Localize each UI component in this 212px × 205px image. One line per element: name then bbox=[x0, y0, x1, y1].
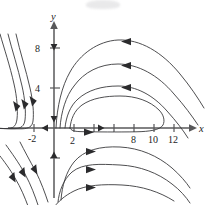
x-label-2: 2 bbox=[70, 135, 75, 146]
curve-upper-right-middle bbox=[60, 64, 198, 128]
curve-upper-left-outer bbox=[0, 34, 17, 129]
x-label-12: 12 bbox=[168, 134, 178, 145]
y-axis-down-marker-upper bbox=[51, 44, 58, 51]
arrow-upper-left-inner bbox=[30, 96, 37, 107]
x-axis-left-marker bbox=[42, 125, 49, 132]
arrow-lower-right-lower bbox=[86, 184, 96, 191]
phase-portrait-svg: -2 2 8 10 12 4 8 x y bbox=[0, 0, 212, 205]
x-label-8: 8 bbox=[131, 134, 136, 145]
y-axis-up-marker-below bbox=[51, 152, 58, 159]
phase-portrait-figure: -2 2 8 10 12 4 8 x y bbox=[0, 0, 212, 205]
curve-upper-right-outer bbox=[56, 40, 204, 128]
curve-closed-loop bbox=[70, 96, 164, 132]
arrow-lower-right-middle bbox=[86, 166, 96, 173]
arrow-upper-right-middle bbox=[121, 62, 131, 69]
y-axis-name: y bbox=[50, 11, 56, 22]
arrow-lower-left-inner bbox=[31, 164, 38, 174]
arrow-upper-right-inner bbox=[121, 84, 131, 91]
y-label-4: 4 bbox=[35, 83, 40, 94]
y-axis-arrowhead bbox=[50, 21, 58, 29]
curve-lower-right-upper bbox=[61, 147, 190, 200]
arrow-closed-loop bbox=[84, 129, 94, 136]
curve-lower-right-middle bbox=[58, 164, 190, 203]
curve-lower-left-middle bbox=[6, 145, 38, 205]
arrow-upper-right-outer bbox=[121, 38, 131, 45]
tick-labels-group: -2 2 8 10 12 4 8 bbox=[28, 43, 178, 146]
x-axis-name: x bbox=[198, 123, 204, 134]
x-axis-arrowhead bbox=[189, 124, 197, 132]
x-label-10: 10 bbox=[148, 134, 158, 145]
page-scan-artifact bbox=[86, 0, 120, 9]
curve-upper-right-inner bbox=[65, 86, 188, 138]
x-label-neg2: -2 bbox=[28, 133, 36, 144]
y-label-8: 8 bbox=[35, 43, 40, 54]
curve-upper-left-inner bbox=[0, 34, 33, 129]
curve-lower-right-lower bbox=[55, 185, 174, 205]
x-axis-right-marker bbox=[98, 125, 105, 132]
trajectories-group bbox=[0, 34, 204, 205]
